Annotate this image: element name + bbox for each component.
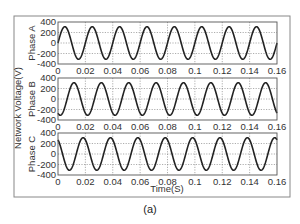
x-tick-label: 0.02	[76, 65, 95, 76]
y-tick-label: -400	[37, 114, 56, 125]
x-tick-label: 0.06	[131, 121, 150, 132]
x-tick-label: 0.02	[76, 121, 95, 132]
x-tick-label: 0.06	[131, 176, 150, 187]
x-tick-label: 0.04	[104, 65, 123, 76]
y-tick-label: 0	[51, 37, 56, 48]
x-tick-label: 0.16	[268, 176, 287, 187]
y-tick-label: 400	[40, 127, 56, 138]
x-tick-label: 0.1	[188, 65, 201, 76]
x-tick-label: 0.14	[240, 65, 259, 76]
y-tick-label: -200	[37, 159, 56, 170]
y-tick-label: 400	[40, 72, 56, 83]
panel-label: Phase C	[26, 136, 37, 173]
x-tick-label: 0.16	[268, 65, 287, 76]
panel-label: Phase B	[26, 81, 37, 117]
x-tick-label: 0.12	[213, 176, 232, 187]
y-tick-label: 400	[40, 16, 56, 27]
x-tick-label: 0.16	[268, 121, 287, 132]
y-axis-title: Network Voltage(V)	[12, 67, 23, 149]
x-tick-label: 0.04	[104, 176, 123, 187]
y-tick-label: 200	[40, 138, 56, 149]
panel-label: Phase A	[26, 25, 37, 61]
y-tick-label: -200	[37, 48, 56, 59]
figure-caption: (a)	[143, 203, 156, 215]
x-tick-label: 0.14	[240, 176, 259, 187]
y-tick-label: -200	[37, 104, 56, 115]
x-tick-label: 0.1	[188, 121, 201, 132]
x-tick-label: 0.06	[131, 65, 150, 76]
x-tick-label: 0.14	[240, 121, 259, 132]
x-tick-label: 0.04	[104, 121, 123, 132]
x-tick-label: 0.1	[188, 176, 201, 187]
y-tick-label: 0	[51, 148, 56, 159]
y-tick-label: -400	[37, 58, 56, 69]
y-tick-label: -400	[37, 169, 56, 180]
x-tick-label: 0.12	[213, 65, 232, 76]
x-tick-label: 0.02	[76, 176, 95, 187]
three-phase-voltage-figure: 4002000-200-40000.020.040.060.080.10.120…	[0, 0, 300, 224]
x-tick-label: 0.08	[158, 121, 177, 132]
x-tick-label: 0.12	[213, 121, 232, 132]
y-tick-label: 200	[40, 83, 56, 94]
x-tick-label: 0	[55, 121, 60, 132]
y-tick-label: 0	[51, 93, 56, 104]
x-axis-title: Time(S)	[150, 183, 183, 194]
x-tick-label: 0.08	[158, 65, 177, 76]
y-tick-label: 200	[40, 27, 56, 38]
x-tick-label: 0	[55, 176, 60, 187]
x-tick-label: 0	[55, 65, 60, 76]
